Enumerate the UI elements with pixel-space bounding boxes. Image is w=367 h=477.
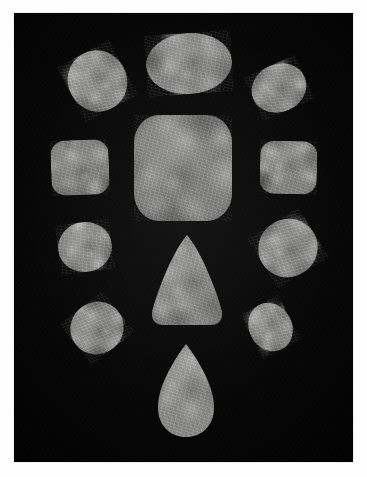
stone-shading [152, 235, 222, 325]
specimen-bottom-right-oval [240, 295, 301, 359]
specimen-left-small-oval [55, 218, 115, 275]
stone-shading [55, 218, 115, 275]
stone-shading [247, 208, 329, 289]
specimen-body [57, 40, 138, 122]
stone-shading [240, 295, 301, 359]
stone-shading [144, 30, 234, 97]
specimen-body [134, 115, 232, 221]
specimen-right-large-oval [247, 208, 329, 289]
specimen-body [158, 344, 214, 437]
specimen-bottom-left-oval [60, 291, 135, 365]
specimen-center-large-square [134, 115, 232, 221]
specimen-body [240, 295, 301, 359]
screenshot-root: Photograph of twelve polished stone spec… [0, 0, 367, 477]
stone-shading [134, 115, 232, 221]
stone-shading [60, 291, 135, 365]
specimen-body [152, 235, 222, 325]
stone-shading [158, 344, 214, 437]
specimen-top-right-oval [244, 55, 315, 122]
stone-shading [50, 139, 110, 196]
stone-shading [260, 141, 318, 195]
specimen-top-center-oval [144, 30, 234, 97]
stone-shading [244, 55, 315, 122]
specimen-bottom-teardrop [158, 344, 214, 437]
stone-shading [57, 40, 138, 122]
specimen-body [50, 139, 110, 196]
specimen-left-rounded-square [50, 139, 110, 196]
specimen-center-cone [152, 235, 222, 325]
specimen-right-rounded-square [260, 141, 318, 195]
specimen-body [247, 208, 329, 289]
specimen-top-left-oval [57, 40, 138, 122]
specimen-body [55, 218, 115, 275]
specimen-body [260, 141, 318, 195]
specimen-body [244, 55, 315, 122]
specimen-body [60, 291, 135, 365]
photograph-plate [14, 13, 353, 462]
specimen-body [144, 30, 234, 97]
